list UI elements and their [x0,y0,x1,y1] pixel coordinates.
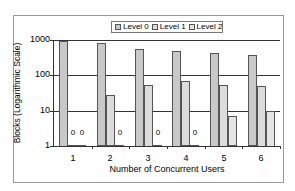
y-axis-title: Blocks (Logarithmic Scale) [12,38,22,148]
bar-level-1 [106,95,115,146]
legend-label: Level 0 [123,21,149,33]
gridline [54,111,280,112]
y-tick-label: 1 [26,140,50,150]
legend-item-level-0: Level 0 [115,22,149,32]
bar-level-0 [59,41,68,147]
gridline [54,75,280,76]
legend-swatch-icon [115,24,121,30]
x-tick-label: 5 [214,153,234,163]
bar-level-1 [219,85,228,147]
y-axis [53,40,54,147]
zero-value-label: 0 [153,128,163,137]
legend-item-level-2: Level 2 [189,22,223,32]
legend-label: Level 1 [160,21,186,33]
x-tick-label: 6 [251,153,271,163]
bar-level-1 [257,86,266,147]
y-tick-label: 100 [26,69,50,79]
bar-level-1 [144,85,153,147]
x-tick [280,146,281,149]
y-tick-label: 10 [26,105,50,115]
bar-level-1 [181,81,190,146]
zero-value-label: 0 [115,128,125,137]
x-tick-label: 2 [100,153,120,163]
legend-swatch-icon [152,24,158,30]
bar-level-0 [135,49,144,147]
y-tick-label: 1000 [26,34,50,44]
x-axis [53,146,280,147]
bar-level-2 [266,111,275,147]
x-tick-label: 1 [63,153,83,163]
zero-value-label: 0 [77,128,87,137]
zero-value-label: 0 [190,128,200,137]
bar-level-2 [228,116,237,146]
gridline [54,40,280,41]
bar-level-0 [248,55,257,146]
bar-level-0 [210,53,219,147]
bar-level-0 [97,43,106,146]
legend-swatch-icon [189,24,195,30]
legend-item-level-1: Level 1 [152,22,186,32]
x-axis-title: Number of Concurrent Users [54,164,280,174]
x-tick-label: 4 [176,153,196,163]
x-tick-label: 3 [138,153,158,163]
legend-label: Level 2 [197,21,223,33]
bar-level-0 [172,51,181,147]
legend: Level 0 Level 1 Level 2 [111,21,223,33]
